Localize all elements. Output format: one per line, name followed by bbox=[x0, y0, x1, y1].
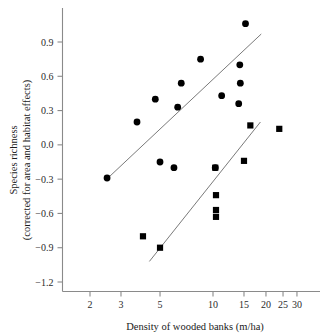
y-axis-title-line2: (corrected for area and habitat effects) bbox=[21, 79, 33, 240]
data-points bbox=[104, 20, 283, 251]
plot-canvas: 0.90.60.30.0−0.3−0.6−0.9−1.2 23510152025… bbox=[0, 0, 326, 335]
x-tick-label: 15 bbox=[239, 299, 249, 310]
data-point-square bbox=[212, 165, 218, 171]
regression-lines bbox=[106, 34, 262, 261]
y-tick-label: 0.0 bbox=[41, 139, 54, 150]
data-point-circle bbox=[218, 92, 225, 99]
data-point-square bbox=[213, 207, 219, 213]
x-axis-title: Density of wooded banks (m/ha) bbox=[126, 321, 264, 333]
y-axis-ticks: 0.90.60.30.0−0.3−0.6−0.9−1.2 bbox=[35, 37, 62, 288]
data-point-circle bbox=[157, 159, 164, 166]
y-tick-label: −0.3 bbox=[35, 174, 53, 185]
data-point-circle bbox=[197, 56, 204, 63]
scatter-plot-figure: 0.90.60.30.0−0.3−0.6−0.9−1.2 23510152025… bbox=[0, 0, 326, 335]
data-point-square bbox=[213, 214, 219, 220]
data-point-square bbox=[213, 192, 219, 198]
data-point-square bbox=[157, 245, 163, 251]
data-point-circle bbox=[171, 164, 178, 171]
x-tick-label: 30 bbox=[292, 299, 302, 310]
x-tick-label: 10 bbox=[208, 299, 218, 310]
x-tick-label: 3 bbox=[118, 299, 123, 310]
data-point-circle bbox=[104, 175, 111, 182]
data-point-circle bbox=[235, 100, 242, 107]
y-tick-label: −1.2 bbox=[35, 277, 53, 288]
x-tick-label: 2 bbox=[88, 299, 93, 310]
data-point-square bbox=[140, 233, 146, 239]
y-tick-label: 0.3 bbox=[41, 105, 54, 116]
data-point-square bbox=[276, 126, 282, 132]
data-point-circle bbox=[174, 104, 181, 111]
data-point-circle bbox=[178, 80, 185, 87]
y-axis-title-line1: Species richness bbox=[8, 125, 19, 194]
y-tick-label: 0.9 bbox=[41, 37, 54, 48]
data-point-circle bbox=[134, 119, 141, 126]
data-point-circle bbox=[152, 96, 159, 103]
y-tick-label: −0.9 bbox=[35, 242, 53, 253]
regression-line-squares bbox=[149, 122, 260, 261]
data-point-square bbox=[247, 122, 253, 128]
x-tick-label: 20 bbox=[261, 299, 271, 310]
y-tick-label: −0.6 bbox=[35, 208, 53, 219]
x-tick-label: 25 bbox=[278, 299, 288, 310]
data-point-circle bbox=[237, 80, 244, 87]
regression-line-circles bbox=[106, 34, 262, 180]
x-axis-ticks: 2351015202530 bbox=[88, 292, 302, 310]
data-point-circle bbox=[242, 20, 249, 27]
data-point-square bbox=[241, 158, 247, 164]
x-tick-label: 5 bbox=[158, 299, 163, 310]
y-tick-label: 0.6 bbox=[41, 71, 54, 82]
data-point-circle bbox=[236, 61, 243, 68]
